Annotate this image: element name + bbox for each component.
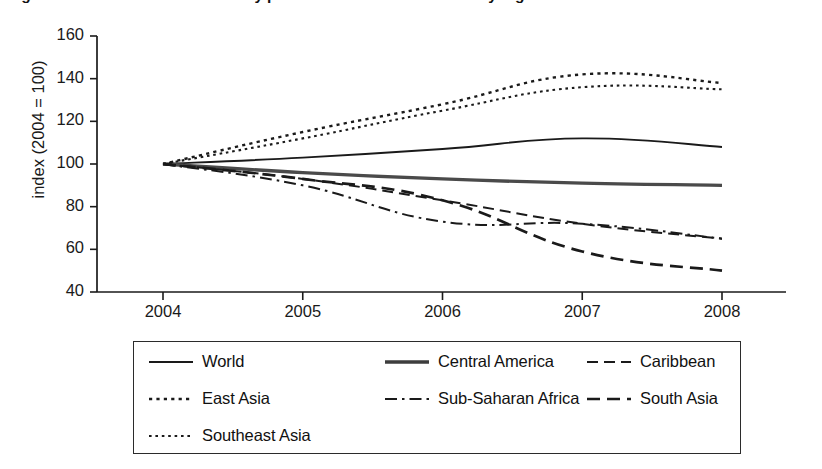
- y-tick-label: 40: [36, 281, 84, 300]
- legend-swatch-dotted-fine-icon: [148, 429, 194, 443]
- y-tick-label: 140: [36, 68, 84, 87]
- y-tick-label: 80: [36, 196, 84, 215]
- y-tick-marks: [90, 36, 97, 292]
- axis-lines: [97, 36, 786, 292]
- legend-swatch-dashdot-icon: [384, 392, 430, 406]
- series-line-east-asia: [163, 73, 722, 164]
- legend-label: Southeast Asia: [202, 426, 311, 445]
- legend-item-southeast-asia[interactable]: Southeast Asia: [148, 417, 311, 454]
- legend-swatch-solid-icon: [148, 355, 194, 369]
- x-tick-marks: [163, 292, 722, 300]
- legend-label: Central America: [438, 352, 554, 371]
- y-tick-label: 120: [36, 110, 84, 129]
- legend-row: Southeast Asia: [134, 417, 740, 454]
- legend-item-sub-saharan-africa[interactable]: Sub-Saharan Africa: [384, 380, 579, 417]
- legend-label: Sub-Saharan Africa: [438, 389, 579, 408]
- legend-swatch-dotted-icon: [148, 392, 194, 406]
- x-tick-label: 2007: [542, 302, 622, 321]
- y-tick-label: 60: [36, 238, 84, 257]
- x-tick-label: 2004: [123, 302, 203, 321]
- legend-label: World: [202, 352, 244, 371]
- legend-swatch-dashed-icon: [586, 355, 632, 369]
- legend-row: East AsiaSub-Saharan AfricaSouth Asia: [134, 380, 740, 417]
- y-tick-label: 160: [36, 25, 84, 44]
- legend-label: South Asia: [640, 389, 718, 408]
- series-lines: [163, 73, 722, 270]
- legend-swatch-dashed-wide-icon: [586, 392, 632, 406]
- series-line-southeast-asia: [163, 85, 722, 164]
- series-line-world: [163, 138, 722, 164]
- x-tick-label: 2008: [682, 302, 762, 321]
- figure-container: Figure 2.3 Index of food commodity price…: [0, 0, 822, 469]
- legend: WorldCentral AmericaCaribbeanEast AsiaSu…: [133, 341, 741, 454]
- legend-label: East Asia: [202, 389, 270, 408]
- legend-item-south-asia[interactable]: South Asia: [586, 380, 718, 417]
- legend-label: Caribbean: [640, 352, 715, 371]
- legend-item-east-asia[interactable]: East Asia: [148, 380, 270, 417]
- legend-item-caribbean[interactable]: Caribbean: [586, 343, 715, 380]
- y-tick-label: 100: [36, 153, 84, 172]
- legend-row: WorldCentral AmericaCaribbean: [134, 343, 740, 380]
- legend-item-central-america[interactable]: Central America: [384, 343, 554, 380]
- legend-swatch-solid-thick-icon: [384, 355, 430, 369]
- x-tick-label: 2006: [403, 302, 483, 321]
- legend-item-world[interactable]: World: [148, 343, 244, 380]
- x-tick-label: 2005: [263, 302, 343, 321]
